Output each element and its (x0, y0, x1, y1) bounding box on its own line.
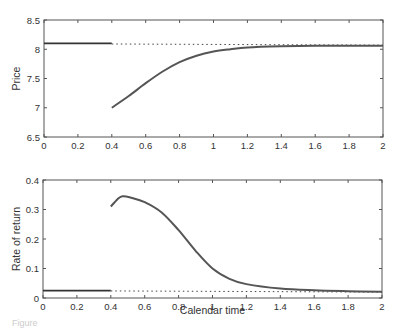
x-tick-label: 0.2 (71, 140, 84, 151)
x-tick-label: 1.6 (308, 301, 321, 312)
y-tick-label: 0.4 (26, 175, 39, 186)
x-tick-label: 0.6 (138, 301, 151, 312)
y-axis-label: Rate of return (10, 207, 22, 271)
y-tick-label: 6.5 (27, 132, 40, 143)
x-tick-label: 0.4 (104, 301, 117, 312)
x-tick-label: 1 (211, 140, 216, 151)
x-tick-label: 2 (380, 140, 385, 151)
y-tick-label: 7.5 (27, 73, 40, 84)
y-axis-label: Price (10, 66, 22, 90)
plot-frame (44, 20, 383, 137)
rate-of-return-plot: 00.20.40.60.811.21.41.61.8200.10.20.30.4… (10, 175, 385, 317)
x-tick-label: 1.4 (274, 301, 287, 312)
y-tick-label: 0.3 (26, 204, 39, 215)
y-tick-label: 8 (35, 44, 40, 55)
x-tick-label: 0 (40, 301, 45, 312)
y-tick-label: 0.1 (26, 263, 39, 274)
x-tick-label: 2 (379, 301, 384, 312)
x-tick-label: 1.4 (275, 140, 288, 151)
y-tick-label: 0.2 (26, 234, 39, 245)
plot-frame (43, 180, 382, 298)
x-tick-label: 0.6 (139, 140, 152, 151)
y-tick-label: 0 (34, 293, 39, 304)
x-axis-label: Calendar time (180, 304, 246, 316)
figure-caption: Figure (12, 318, 38, 328)
x-tick-label: 0.2 (70, 301, 83, 312)
y-tick-label: 8.5 (27, 15, 40, 26)
x-tick-label: 1.8 (341, 301, 354, 312)
x-tick-label: 1.2 (241, 140, 254, 151)
x-tick-label: 1.6 (309, 140, 322, 151)
chart-canvas: 00.20.40.60.811.21.41.61.826.577.588.5Pr… (0, 0, 400, 330)
x-tick-label: 0.8 (173, 140, 186, 151)
x-tick-label: 0 (41, 140, 46, 151)
x-tick-label: 0.4 (105, 140, 118, 151)
y-tick-label: 7 (35, 102, 40, 113)
price-plot: 00.20.40.60.811.21.41.61.826.577.588.5Pr… (10, 15, 386, 152)
series-price-path-after-shock (112, 46, 383, 108)
series-return-path-after-shock (111, 196, 382, 292)
x-tick-label: 1.8 (342, 140, 355, 151)
